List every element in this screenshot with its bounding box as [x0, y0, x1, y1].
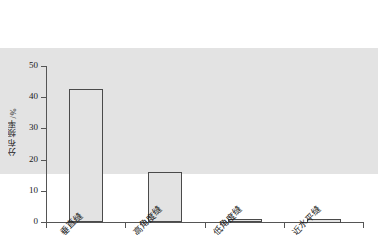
x-tick-0 — [46, 223, 47, 228]
y-tick-label-0: 0 — [10, 217, 38, 226]
y-tick-20 — [41, 160, 47, 161]
x-tick-4 — [363, 223, 364, 228]
y-tick-50 — [41, 66, 47, 67]
bar-chart-figure: 50 40 30 20 10 0 分布频率/% 垂直缝 高角度缝 低角度缝 近水… — [0, 48, 378, 174]
x-tick-2 — [205, 223, 206, 228]
y-tick-40 — [41, 97, 47, 98]
y-tick-30 — [41, 128, 47, 129]
x-tick-1 — [125, 223, 126, 228]
y-tick-10 — [41, 191, 47, 192]
y-axis-line — [46, 66, 47, 223]
y-tick-label-50: 50 — [10, 61, 38, 70]
y-axis-title: 分布频率/% — [9, 108, 21, 156]
y-tick-label-40: 40 — [10, 92, 38, 101]
bar-0 — [69, 89, 103, 222]
y-tick-label-10: 10 — [10, 186, 38, 195]
x-tick-3 — [284, 223, 285, 228]
